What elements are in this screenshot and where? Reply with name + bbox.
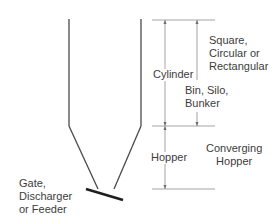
bin-label: Bin, Silo, Bunker [185,84,228,110]
cylinder-label: Cylinder [153,68,193,81]
gate-label-line: Discharger [19,190,72,203]
shape-label-line: Rectangular [209,60,268,73]
arrow-cyl-top [164,20,167,24]
shape-label-line: Circular or [209,47,268,60]
converging-hopper-label-line: Hopper [206,155,262,168]
hopper-right-wall [114,126,141,189]
arrow-bin-top [196,20,199,24]
bin-label-line: Bin, Silo, [185,84,228,97]
arrow-bin-bottom [196,122,199,126]
bin-label-line: Bunker [185,97,228,110]
shape-label-line: Square, [209,34,268,47]
arrow-cyl-bottom [164,122,167,126]
hopper-left-wall [69,126,98,189]
gate-label: Gate, Discharger or Feeder [19,177,72,216]
gate-label-line: or Feeder [19,203,72,216]
converging-hopper-label: Converging Hopper [206,142,262,168]
hopper-label: Hopper [151,151,187,164]
arrow-hop-top [164,126,167,130]
silo-outline [69,19,141,189]
arrow-hop-bottom [164,185,167,189]
converging-hopper-label-line: Converging [206,142,262,155]
shape-label: Square, Circular or Rectangular [209,34,268,73]
gate-label-line: Gate, [19,177,72,190]
feeder-plate [86,189,123,200]
